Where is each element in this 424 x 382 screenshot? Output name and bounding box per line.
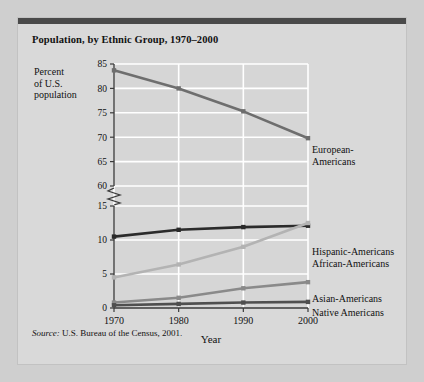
chart-card: Population, by Ethnic Group, 1970–2000 P… bbox=[18, 18, 406, 364]
legend-hispanic-americans: Hispanic-Americans bbox=[312, 246, 394, 258]
x-tick-label: 1980 bbox=[169, 315, 189, 326]
x-tick-label: 1970 bbox=[104, 315, 124, 326]
source-label: Source: bbox=[32, 328, 60, 338]
y-tick-label: 75 bbox=[98, 108, 108, 118]
data-point bbox=[306, 136, 310, 140]
y-tick-label: 15 bbox=[98, 201, 108, 211]
data-point bbox=[306, 280, 310, 284]
y-tick-label: 5 bbox=[102, 269, 107, 279]
data-point bbox=[112, 68, 116, 72]
legend-african-americans: African-Americans bbox=[312, 258, 389, 270]
data-point bbox=[241, 286, 245, 290]
y-tick-label: 60 bbox=[98, 181, 108, 191]
data-point bbox=[241, 225, 245, 229]
data-point bbox=[176, 86, 180, 90]
data-point bbox=[241, 109, 245, 113]
y-tick-label: 70 bbox=[98, 133, 108, 143]
legend-european-americans: European- Americans bbox=[312, 144, 355, 167]
data-point bbox=[176, 302, 180, 306]
legend-european-line2: Americans bbox=[312, 156, 355, 168]
y-tick-label: 0 bbox=[102, 303, 107, 313]
data-point bbox=[176, 228, 180, 232]
y-tick-label: 65 bbox=[98, 157, 108, 167]
y-tick-label: 85 bbox=[98, 59, 108, 69]
x-tick-label: 1990 bbox=[233, 315, 253, 326]
legend-native-americans: Native Americans bbox=[312, 307, 384, 319]
data-point bbox=[306, 300, 310, 304]
legend-asian-americans: Asian-Americans bbox=[312, 293, 382, 305]
source-text: U.S. Bureau of the Census, 2001. bbox=[60, 328, 183, 338]
data-point bbox=[176, 296, 180, 300]
x-axis-tick-labels: 1970198019902000 bbox=[104, 315, 318, 326]
y-tick-label: 10 bbox=[98, 235, 108, 245]
y-axis-tick-labels: 051015606570758085 bbox=[98, 59, 108, 313]
data-point bbox=[112, 303, 116, 307]
x-axis-title: Year bbox=[201, 333, 222, 345]
y-tick-label: 80 bbox=[98, 84, 108, 94]
data-point bbox=[112, 234, 116, 238]
data-point bbox=[306, 221, 310, 225]
data-point bbox=[241, 300, 245, 304]
data-point bbox=[241, 245, 245, 249]
data-point bbox=[176, 262, 180, 266]
data-point bbox=[112, 275, 116, 279]
source-note: Source: U.S. Bureau of the Census, 2001. bbox=[32, 328, 182, 338]
legend-european-line1: European- bbox=[312, 144, 355, 156]
